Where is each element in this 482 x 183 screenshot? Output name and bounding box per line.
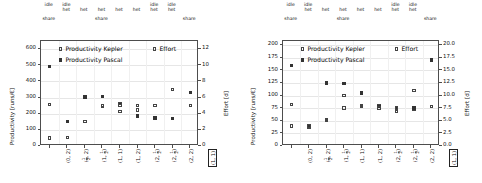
y-tick-label-left: 400 xyxy=(10,78,36,83)
x-tickmark xyxy=(326,145,327,148)
x-tick-label-text: (12, 2) xyxy=(84,149,90,162)
y-tickmark-left xyxy=(38,97,41,98)
y-tickmark-right xyxy=(198,97,201,98)
x-tickmark xyxy=(66,145,67,148)
legend-marker-effort xyxy=(153,47,156,50)
x-tick-label: (2, 12) xyxy=(412,149,422,162)
data-point xyxy=(430,58,433,61)
x-tickmark xyxy=(119,145,120,148)
data-point xyxy=(189,104,192,107)
x-tickmark xyxy=(430,145,431,148)
x-tick-label-text: (2, 12) xyxy=(172,149,178,162)
data-point xyxy=(48,103,51,106)
y-tickmark-right xyxy=(198,129,201,130)
data-point xyxy=(412,89,415,92)
y-gridline xyxy=(41,114,197,115)
y-tickmark-right xyxy=(439,132,442,133)
y-tick-label-left: 150 xyxy=(252,67,278,72)
data-point xyxy=(83,120,86,123)
y-tickmark-left xyxy=(280,82,283,83)
y-tickmark-left xyxy=(280,132,283,133)
y-tickmark-left xyxy=(38,48,41,49)
data-point xyxy=(307,124,310,127)
legend-marker-effort xyxy=(395,47,398,50)
column-separator xyxy=(146,41,147,144)
y-tick-label-left: 500 xyxy=(10,62,36,67)
y-tickmark-right xyxy=(198,80,201,81)
data-point xyxy=(101,104,104,107)
y-axis-title-right: Effort [d] xyxy=(465,91,471,116)
y-tick-label-right: 5.0 xyxy=(443,117,452,122)
x-tick-label: (1, 1) xyxy=(118,149,123,163)
legend-entry-pascal: Productivity Pascal xyxy=(301,57,365,63)
data-point xyxy=(66,136,69,139)
x-tick-label: (2, 12) xyxy=(153,149,163,162)
x-tickmark xyxy=(308,145,309,148)
y-tick-label-right: 7.5 xyxy=(443,105,452,110)
legend-entry-effort: Effort xyxy=(153,46,176,52)
data-point xyxy=(48,65,51,68)
column-separator xyxy=(423,41,424,144)
data-point xyxy=(325,119,328,122)
panel-right: Productivity KeplerProductivity PascalEf… xyxy=(241,0,482,183)
x-tick-label-text: (0, 2) xyxy=(307,149,313,163)
y-axis-title-right: Effort [d] xyxy=(224,91,230,116)
legend-entry-pascal: Productivity Pascal xyxy=(59,57,123,63)
x-tickmark xyxy=(154,145,155,148)
y-tick-label-right: 2 xyxy=(202,126,205,131)
x-tickmark xyxy=(291,145,292,148)
data-point xyxy=(395,110,398,113)
y-tick-label-left: 175 xyxy=(252,54,278,59)
y-tickmark-left xyxy=(280,145,283,146)
x-tickmark xyxy=(172,145,173,148)
top-label-line: share xyxy=(175,17,203,22)
x-tickmark xyxy=(413,145,414,148)
y-tick-label-right: 8 xyxy=(202,78,205,83)
y-gridline xyxy=(283,133,438,134)
y-tick-label-right: 6 xyxy=(202,94,205,99)
x-tick-label-text: (1, 2) xyxy=(135,149,141,163)
x-tick-label-text: (1, 12) xyxy=(343,149,349,162)
y-tick-label-right: 12 xyxy=(202,45,209,50)
data-point xyxy=(325,81,328,84)
top-column-label: share xyxy=(175,3,203,22)
top-column-label: share xyxy=(416,3,444,22)
y-gridline xyxy=(283,96,438,97)
plot-area-right: Productivity KeplerProductivity PascalEf… xyxy=(282,40,439,145)
top-label-line: share xyxy=(416,17,444,22)
data-point xyxy=(136,104,139,107)
x-tick-label-text: (1, 1) xyxy=(359,149,365,163)
x-tick-label: (0, 2) xyxy=(308,149,313,163)
y-tickmark-left xyxy=(280,107,283,108)
data-point xyxy=(136,108,139,111)
y-tickmark-right xyxy=(439,95,442,96)
y-gridline xyxy=(41,65,197,66)
column-separator xyxy=(388,41,389,144)
x-tick-label-text: (2, 12) xyxy=(154,149,160,162)
y-tick-label-right: 15.0 xyxy=(443,67,455,72)
x-tickmark xyxy=(84,145,85,148)
y-tickmark-right xyxy=(198,64,201,65)
column-separator xyxy=(164,41,165,144)
x-tickmark xyxy=(395,145,396,148)
x-tick-label-boxed: (1, 1) xyxy=(449,149,458,167)
x-tick-label: (1, 2) xyxy=(378,149,383,163)
y-tickmark-right xyxy=(439,57,442,58)
x-tick-label: (1, 1) xyxy=(210,149,215,167)
legend-label-kepler: Productivity Kepler xyxy=(65,46,122,52)
y-tickmark-right xyxy=(439,44,442,45)
y-tick-label-right: 2.5 xyxy=(443,130,452,135)
x-tickmark xyxy=(137,145,138,148)
y-tickmark-left xyxy=(280,120,283,121)
x-tick-label-text: (2, 2) xyxy=(429,149,435,163)
x-tick-label-boxed: (1, 1) xyxy=(208,149,217,167)
y-tickmark-right xyxy=(439,69,442,70)
y-tickmark-left xyxy=(38,80,41,81)
y-tickmark-left xyxy=(280,57,283,58)
data-point xyxy=(290,64,293,67)
data-point xyxy=(171,117,174,120)
y-tick-label-right: 4 xyxy=(202,110,205,115)
x-tick-label: (1, 12) xyxy=(100,149,110,162)
y-tick-label-right: 20.0 xyxy=(443,41,455,46)
data-point xyxy=(430,105,433,108)
